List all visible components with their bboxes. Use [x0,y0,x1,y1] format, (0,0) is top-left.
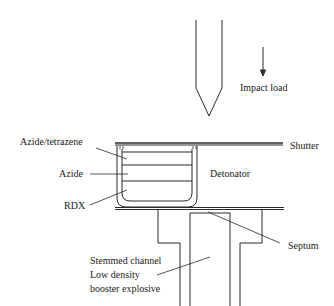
stemmed-channel-label: Stemmed channel Low density booster expl… [90,254,161,296]
stemmed-channel-line-1: Stemmed channel [90,254,161,268]
rdx-label: RDX [64,200,85,212]
impact-load-label: Impact load [240,82,287,94]
azide-label: Azide [59,168,83,180]
shutter-label: Shutter [290,140,319,152]
detonator-diagram: Impact load Shutter Azide/tetrazene Azid… [0,0,334,306]
stemmed-channel-line-2: Low density [90,268,161,282]
septum-label: Septum [288,240,319,252]
impact-arrow-icon [261,47,266,76]
septum-plate [115,208,284,210]
azide-tetrazene-label: Azide/tetrazene [20,136,83,148]
stemmed-channel-line-3: booster explosive [90,282,161,296]
shutter-plate [115,143,283,149]
detonator-cup [117,146,197,207]
striker-icon [196,20,222,116]
detonator-label: Detonator [210,168,250,180]
diagram-drawing [0,0,334,306]
booster-housing [158,210,262,306]
